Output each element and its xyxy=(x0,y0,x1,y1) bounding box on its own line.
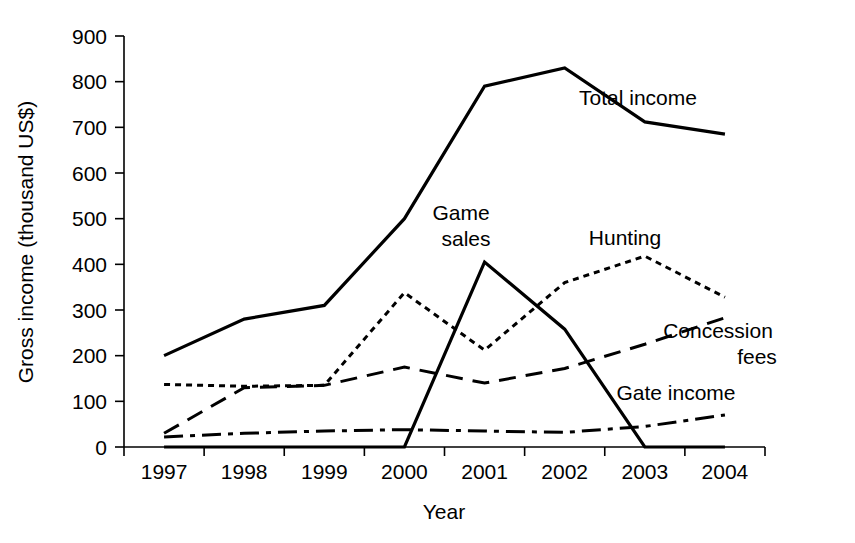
x-tick-label: 1997 xyxy=(141,460,188,483)
y-tick-label: 500 xyxy=(72,207,107,230)
x-tick-label: 2003 xyxy=(621,460,668,483)
series-label-hunting: Hunting xyxy=(589,226,661,249)
x-tick-label: 2004 xyxy=(702,460,749,483)
y-tick-label: 200 xyxy=(72,344,107,367)
y-tick-label: 900 xyxy=(72,25,107,48)
x-tick-label: 1998 xyxy=(221,460,268,483)
series-line-gate-income xyxy=(164,415,725,437)
series-label-game: Game xyxy=(432,201,489,224)
y-tick-label: 800 xyxy=(72,70,107,93)
y-axis-ticks xyxy=(115,36,124,447)
series-label-total-income: Total income xyxy=(579,86,697,109)
y-axis-tick-labels: 0100200300400500600700800900 xyxy=(72,25,107,459)
series-label-fees: fees xyxy=(737,345,777,368)
series-line-game-sales xyxy=(164,262,725,447)
y-tick-label: 400 xyxy=(72,253,107,276)
y-tick-label: 100 xyxy=(72,390,107,413)
series-label-concession: Concession xyxy=(663,319,773,342)
line-chart: 0100200300400500600700800900 19971998199… xyxy=(0,0,855,543)
x-axis-title: Year xyxy=(423,500,465,523)
x-tick-label: 2001 xyxy=(461,460,508,483)
y-tick-label: 300 xyxy=(72,299,107,322)
series-label-gate-income: Gate income xyxy=(616,381,735,404)
series-label-sales: sales xyxy=(441,227,490,250)
x-axis-tick-labels: 19971998199920002001200220032004 xyxy=(141,460,749,483)
y-axis-title: Gross income (thousand US$) xyxy=(14,101,37,383)
x-tick-label: 1999 xyxy=(301,460,348,483)
x-tick-label: 2000 xyxy=(381,460,428,483)
x-tick-label: 2002 xyxy=(541,460,588,483)
y-tick-label: 600 xyxy=(72,162,107,185)
chart-svg: 0100200300400500600700800900 19971998199… xyxy=(0,0,855,543)
series-line-hunting xyxy=(164,256,725,386)
y-tick-label: 700 xyxy=(72,116,107,139)
y-tick-label: 0 xyxy=(95,436,107,459)
series-line-concession-fees xyxy=(164,318,725,434)
